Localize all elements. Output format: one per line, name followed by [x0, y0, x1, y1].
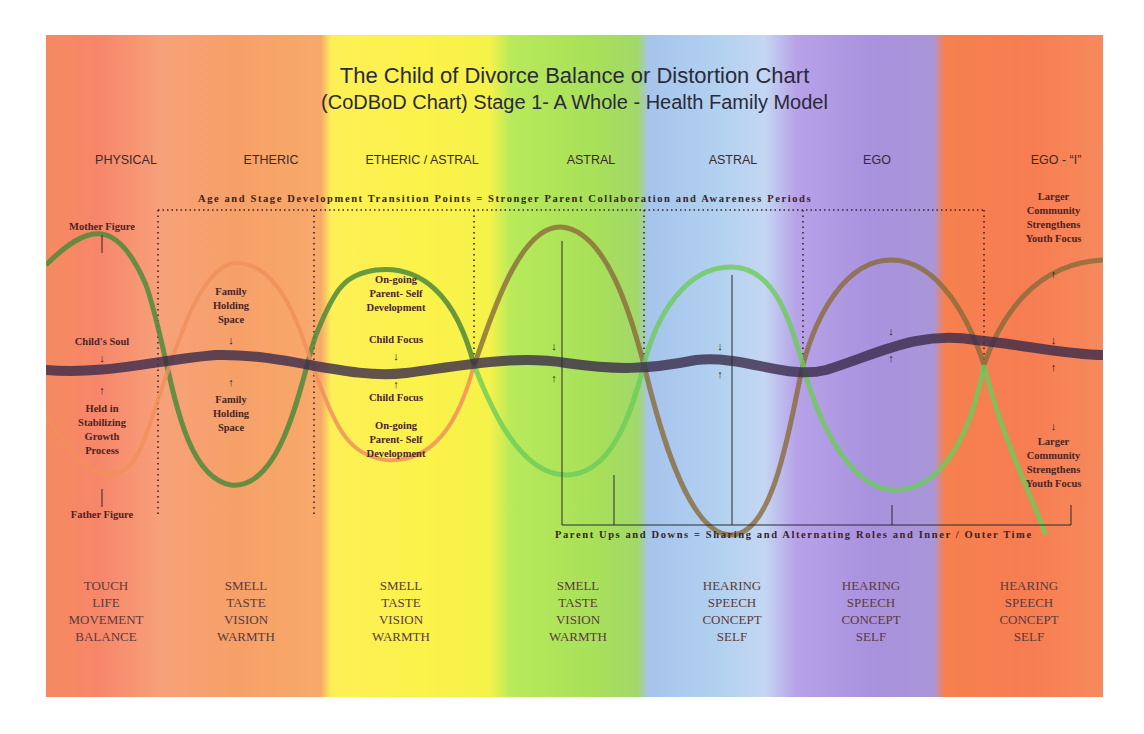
senses-physical: TOUCHLIFE MOVEMENTBALANCE [46, 577, 176, 645]
arrow-up-icon: ↑ [52, 385, 152, 395]
childs-soul-label: Child's Soul [52, 335, 152, 349]
mother-figure-label: Mother Figure [52, 220, 152, 234]
child-focus-top-label: Child Focus [341, 333, 451, 347]
codbod-chart: The Child of Divorce Balance or Distorti… [46, 35, 1103, 697]
arrow-down-icon: ↓ [534, 341, 574, 351]
senses-ego: HEARINGSPEECH CONCEPTSELF [801, 577, 941, 645]
arrow-up-icon: ↑ [341, 379, 451, 389]
senses-astral-1: SMELLTASTE VISIONWARMTH [508, 577, 648, 645]
held-in-label: Held in Stabilizing Growth Process [52, 402, 152, 458]
transition-points-banner: Age and Stage Development Transition Poi… [198, 193, 812, 204]
arrow-up-icon: ↑ [534, 373, 574, 383]
stage-astral-2: ASTRAL [663, 153, 803, 167]
parent-ups-downs-banner: Parent Ups and Downs = Sharing and Alter… [555, 529, 1033, 540]
arrow-down-icon: ↓ [181, 335, 281, 345]
child-focus-bottom-label: Child Focus [341, 391, 451, 405]
ongoing-development-top-label: On-going Parent- Self Development [341, 273, 451, 315]
stage-ego: EGO [807, 153, 947, 167]
arrow-down-icon: ↓ [341, 351, 451, 361]
senses-etheric-astral: SMELLTASTE VISIONWARMTH [331, 577, 471, 645]
arrow-down-icon: ↓ [1006, 335, 1101, 345]
arrow-up-icon: ↑ [1006, 362, 1101, 372]
arrow-up-icon: ↑ [1006, 269, 1101, 279]
community-top-label: Larger Community Strengthens Youth Focus [1006, 190, 1101, 246]
father-figure-label: Father Figure [52, 508, 152, 522]
family-holding-bottom-label: Family Holding Space [181, 379, 281, 435]
arrow-down-icon: ↓ [700, 341, 740, 351]
stage-etheric: ETHERIC [201, 153, 341, 167]
chart-subtitle: (CoDBoD Chart) Stage 1- A Whole - Health… [46, 91, 1103, 114]
stage-physical: PHYSICAL [56, 153, 196, 167]
arrow-down-icon: ↓ [52, 353, 152, 363]
family-holding-top-label: Family Holding Space [181, 285, 281, 327]
senses-ego-i: HEARINGSPEECH CONCEPTSELF [959, 577, 1099, 645]
senses-etheric: SMELLTASTE VISIONWARMTH [176, 577, 316, 645]
arrow-down-icon: ↓ [1006, 421, 1101, 431]
stage-etheric-astral: ETHERIC / ASTRAL [352, 153, 492, 167]
arrow-down-icon: ↓ [871, 326, 911, 336]
arrow-up-icon: ↑ [700, 369, 740, 379]
community-bottom-label: Larger Community Strengthens Youth Focus [1006, 435, 1101, 491]
chart-title: The Child of Divorce Balance or Distorti… [46, 63, 1103, 89]
ongoing-development-bottom-label: On-going Parent- Self Development [341, 419, 451, 461]
stage-astral-1: ASTRAL [521, 153, 661, 167]
stage-ego-i: EGO - “I” [986, 153, 1103, 167]
arrow-up-icon: ↑ [871, 353, 911, 363]
senses-astral-2: HEARINGSPEECH CONCEPTSELF [662, 577, 802, 645]
